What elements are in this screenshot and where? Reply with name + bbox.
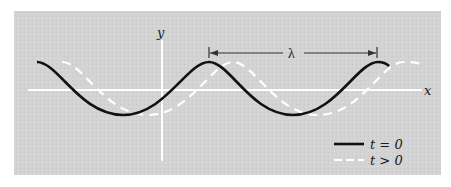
legend-label-t-later: t > 0 xyxy=(370,153,403,168)
wavelength-label: λ xyxy=(288,46,295,61)
wave-diagram: x y λ t = 0 t > 0 xyxy=(0,0,451,187)
x-axis-label: x xyxy=(424,83,432,98)
legend-label-t-zero: t = 0 xyxy=(370,137,403,152)
y-axis-label: y xyxy=(156,25,165,40)
